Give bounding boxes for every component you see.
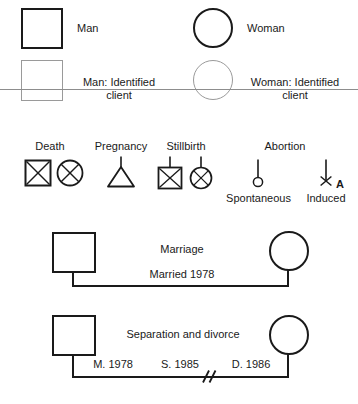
stillbirth-label: Stillbirth: [150, 140, 222, 153]
stillbirth-circle-symbol: [188, 156, 214, 190]
man-label: Man: [77, 22, 98, 35]
woman-circle-symbol: [193, 8, 233, 48]
genogram-figure: Man Woman Man: Identified client Woman: …: [0, 0, 358, 404]
marriage-man-square-symbol: [52, 232, 96, 273]
man-square-symbol: [21, 8, 63, 49]
divorce-woman-circle-symbol: [269, 315, 309, 355]
spontaneous-abortion-symbol: [249, 159, 267, 189]
divorce-divorced-date-label: D. 1986: [222, 358, 280, 371]
marriage-connector-bottom: [72, 285, 289, 287]
induced-abortion-symbol: [317, 159, 335, 189]
divorce-man-square-symbol: [52, 315, 96, 356]
panel-letter-label: A: [336, 178, 344, 191]
divorce-connector-left: [72, 355, 74, 378]
woman-identified-client-circle-symbol: [193, 60, 233, 100]
pregnancy-triangle-symbol: [101, 156, 141, 190]
man-identified-client-square-symbol: [21, 60, 63, 101]
induced-label: Induced: [294, 192, 358, 205]
stillbirth-square-symbol: [157, 156, 183, 190]
section-divider-line: [0, 89, 358, 90]
divorce-married-date-label: M. 1978: [84, 358, 142, 371]
death-square-symbol: [24, 159, 52, 187]
abortion-label: Abortion: [237, 140, 333, 153]
marriage-title-label: Marriage: [127, 243, 237, 256]
divorce-title-label: Separation and divorce: [110, 328, 256, 341]
spontaneous-label: Spontaneous: [222, 192, 295, 205]
marriage-connector-right: [287, 270, 289, 287]
marriage-detail-label: Married 1978: [127, 268, 237, 281]
divorce-double-slash-mark: [198, 367, 220, 387]
divorce-connector-bottom: [72, 376, 289, 378]
death-label: Death: [14, 140, 86, 153]
marriage-woman-circle-symbol: [269, 231, 309, 271]
pregnancy-label: Pregnancy: [88, 140, 154, 153]
death-circle-symbol: [56, 159, 84, 187]
divorce-connector-right: [287, 354, 289, 377]
woman-label: Woman: [247, 22, 285, 35]
